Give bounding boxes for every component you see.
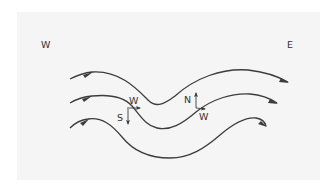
west-label: W [41, 39, 51, 50]
flow-diagram: W E W S N W [0, 0, 329, 187]
east-label: E [287, 39, 293, 50]
component-label-west: W [129, 95, 139, 106]
arrowhead-icon [268, 99, 278, 104]
flow-line-middle [70, 94, 278, 129]
arrow-right-icon [196, 108, 205, 109]
trough-components: W S [117, 95, 140, 124]
ridge-components: N W [184, 93, 209, 122]
component-label-south: S [117, 112, 123, 123]
component-label-north: N [184, 94, 191, 105]
flow-line-lower [70, 118, 267, 158]
component-label-west: W [199, 111, 209, 122]
flow-line-upper [70, 70, 289, 105]
